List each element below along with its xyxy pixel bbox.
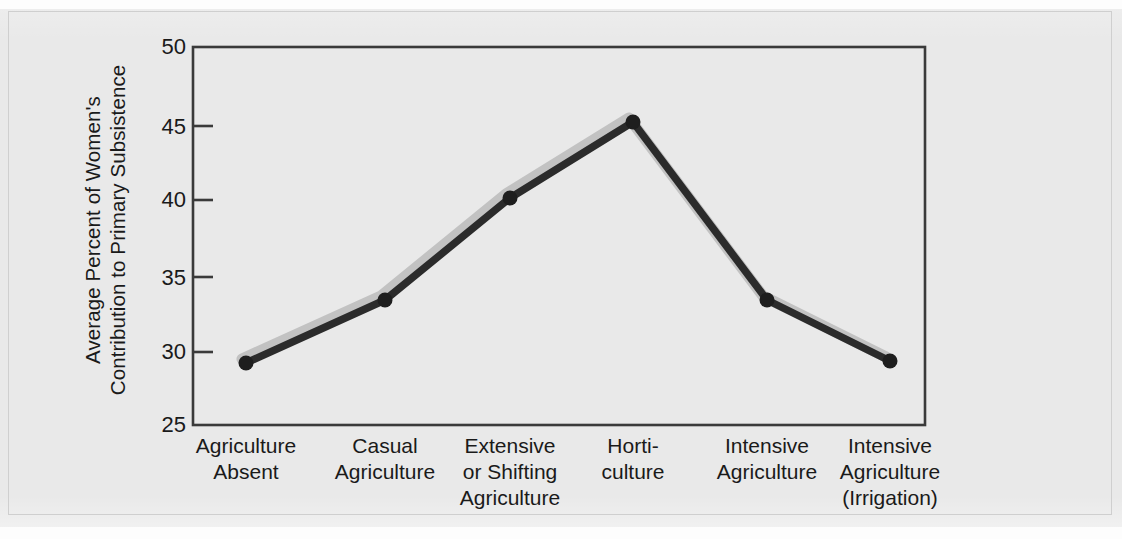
data-point-intensive-agriculture (760, 293, 775, 308)
data-point-horticulture (626, 115, 641, 130)
data-point-casual-agriculture (378, 293, 393, 308)
data-point-intensive-agriculture-irrigation (883, 354, 898, 369)
axes-frame (193, 47, 925, 425)
data-point-agriculture-absent (239, 356, 254, 371)
data-point-extensive-or-shifting-agriculture (503, 191, 518, 206)
x-tick-label-line: Agriculture (410, 485, 610, 511)
x-tick-label-line: (Irrigation) (790, 485, 990, 511)
line-chart: Average Percent of Women's Contribution … (0, 0, 1122, 539)
figure-container: Average Percent of Women's Contribution … (0, 0, 1122, 539)
x-tick-label-line: Intensive (790, 433, 990, 459)
x-tick-label-line: Agriculture (790, 459, 990, 485)
x-tick-label-intensive-agriculture-irrigation: Intensive Agriculture (Irrigation) (790, 433, 990, 511)
series-line (246, 122, 890, 363)
y-axis-ticks (193, 126, 213, 352)
